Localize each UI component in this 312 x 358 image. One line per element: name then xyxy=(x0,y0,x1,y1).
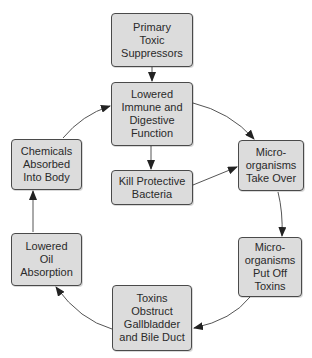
node-line: Immune and xyxy=(121,101,182,114)
edge-immune-to-takeover xyxy=(193,103,254,139)
node-line: Into Body xyxy=(21,171,72,184)
node-line: Bacteria xyxy=(119,188,186,201)
node-line: Lowered xyxy=(121,88,182,101)
node-line: Obstruct xyxy=(119,305,184,318)
node-line: Toxic xyxy=(121,34,183,47)
cycle-diagram: Primary Toxic Suppressors Lowered Immune… xyxy=(0,0,312,358)
node-microorganisms-put-off-toxins: Micro- organisms Put Off Toxins xyxy=(238,237,302,297)
node-line: Toxins xyxy=(245,280,296,293)
node-microorganisms-take-over: Micro- organisms Take Over xyxy=(238,140,304,191)
node-line: Chemicals xyxy=(21,145,72,158)
edge-toxins-to-oil xyxy=(56,287,112,329)
node-toxins-obstruct-gallbladder: Toxins Obstruct Gallbladder and Bile Duc… xyxy=(112,285,192,351)
edge-putoff-to-toxins xyxy=(194,297,250,328)
node-line: Primary xyxy=(121,21,183,34)
edge-kill-to-takeover xyxy=(193,167,237,185)
node-line: Micro- xyxy=(245,241,296,254)
node-chemicals-absorbed: Chemicals Absorbed Into Body xyxy=(11,139,82,190)
node-line: Take Over xyxy=(246,172,297,185)
edge-chemicals-to-immune xyxy=(63,106,110,138)
node-line: Oil xyxy=(20,253,73,266)
node-line: Gallbladder xyxy=(119,318,184,331)
node-line: Toxins xyxy=(119,292,184,305)
node-kill-protective-bacteria: Kill Protective Bacteria xyxy=(111,170,193,205)
node-lowered-immune-digestive: Lowered Immune and Digestive Function xyxy=(111,82,193,146)
node-line: Absorption xyxy=(20,266,73,279)
node-primary-toxic-suppressors: Primary Toxic Suppressors xyxy=(111,13,193,67)
edge-takeover-to-putoff xyxy=(278,192,282,236)
node-line: Suppressors xyxy=(121,47,183,60)
node-line: Function xyxy=(121,127,182,140)
node-line: and Bile Duct xyxy=(119,331,184,344)
node-line: Digestive xyxy=(121,114,182,127)
node-line: Micro- xyxy=(246,146,297,159)
node-line: organisms xyxy=(245,254,296,267)
node-line: Absorbed xyxy=(21,158,72,171)
node-line: Kill Protective xyxy=(119,175,186,188)
node-line: organisms xyxy=(246,159,297,172)
node-line: Put Off xyxy=(245,267,296,280)
node-line: Lowered xyxy=(20,240,73,253)
node-lowered-oil-absorption: Lowered Oil Absorption xyxy=(11,233,82,286)
